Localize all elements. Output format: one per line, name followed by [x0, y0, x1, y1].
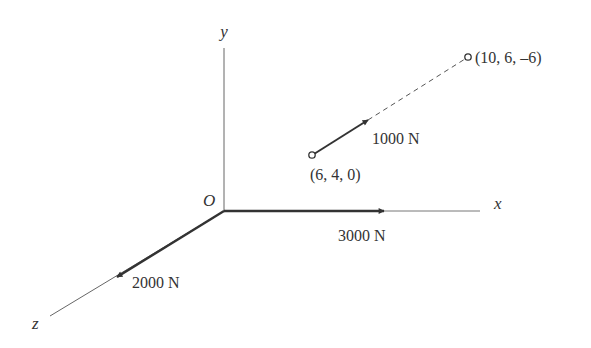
z-axis-label: z	[31, 314, 39, 333]
point-label-6-4-0: (6, 4, 0)	[310, 166, 361, 184]
force-label-3000n: 3000 N	[338, 227, 386, 244]
force-arrow-1000n	[314, 120, 368, 154]
origin-label: O	[203, 191, 215, 210]
force-arrow-2000n	[117, 211, 224, 277]
y-axis-label: y	[218, 22, 228, 41]
x-axis-label: x	[493, 194, 502, 213]
force-label-1000n: 1000 N	[372, 130, 420, 147]
line-of-action	[368, 59, 465, 120]
point-10-6-neg6	[465, 54, 471, 60]
point-6-4-0	[309, 152, 315, 158]
force-diagram: y x z O 3000 N 2000 N 1000 N (6, 4, 0) (…	[0, 0, 591, 348]
point-label-10-6-neg6: (10, 6, –6)	[475, 49, 542, 67]
force-label-2000n: 2000 N	[132, 274, 180, 291]
